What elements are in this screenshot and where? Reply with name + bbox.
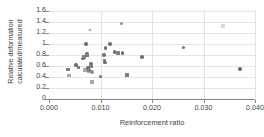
data-point xyxy=(121,51,125,55)
scatter-chart: Relative deformation calculated/measured… xyxy=(0,0,264,137)
data-point xyxy=(116,51,120,55)
y-axis-title-line-1: Relative deformation xyxy=(6,19,15,84)
x-axis-tick-label: 0.030 xyxy=(184,104,224,112)
y-axis-tick-label: 0.6 xyxy=(28,62,46,69)
x-axis-tick-mark xyxy=(152,100,153,103)
y-axis-title-line-2: calculated/measured xyxy=(15,19,24,84)
x-axis-tick-label: 0.000 xyxy=(29,104,69,112)
y-axis-tick-mark xyxy=(45,88,49,89)
data-point xyxy=(140,55,144,59)
data-point xyxy=(221,24,225,28)
data-point xyxy=(104,46,108,50)
y-axis-tick-mark xyxy=(45,22,49,23)
data-point xyxy=(86,54,90,58)
y-axis-tick-label: 1.6 xyxy=(28,7,46,14)
y-axis-tick-mark xyxy=(45,33,49,34)
data-point xyxy=(102,53,106,57)
x-axis-tick-mark xyxy=(255,100,256,103)
y-axis-tick-label: 0 xyxy=(28,95,46,102)
y-axis-tick-mark xyxy=(45,44,49,45)
data-point xyxy=(238,67,242,71)
data-point xyxy=(90,80,94,84)
data-point xyxy=(120,22,124,26)
x-axis-tick-label: 0.020 xyxy=(132,104,172,112)
vertical-gridline xyxy=(255,11,256,99)
data-point xyxy=(182,46,186,50)
vertical-gridline xyxy=(152,11,153,99)
x-axis-title: Reinforcement ratio xyxy=(49,118,255,127)
y-axis-tick-mark xyxy=(45,55,49,56)
x-axis-tick-mark xyxy=(49,100,50,103)
data-point xyxy=(88,28,92,31)
y-axis-tick-label: 0.8 xyxy=(28,51,46,58)
data-point xyxy=(77,66,81,70)
vertical-gridline xyxy=(204,11,205,99)
data-point xyxy=(90,70,94,74)
data-point xyxy=(84,42,88,46)
y-axis-tick-mark xyxy=(45,66,49,67)
y-axis-tick-labels: 00.20.40.60.811.21.41.6 xyxy=(28,11,46,99)
y-axis-tick-label: 0.2 xyxy=(28,84,46,91)
plot-area xyxy=(49,11,255,99)
x-axis-tick-labels: 0.0000.0100.0200.0300.040 xyxy=(0,104,264,114)
y-axis-tick-label: 1.4 xyxy=(28,18,46,25)
x-axis-tick-mark xyxy=(204,100,205,103)
y-axis-tick-mark xyxy=(45,77,49,78)
y-axis-tick-mark xyxy=(45,11,49,12)
x-axis-tick-label: 0.010 xyxy=(81,104,121,112)
data-point xyxy=(108,42,112,46)
data-point xyxy=(89,64,93,68)
y-axis-tick-label: 0.4 xyxy=(28,73,46,80)
data-point xyxy=(125,73,129,77)
y-axis-tick-label: 1 xyxy=(28,40,46,47)
y-axis-tick-label: 1.2 xyxy=(28,29,46,36)
y-axis-title: Relative deformation calculated/measured xyxy=(0,0,30,103)
data-point xyxy=(103,61,107,65)
x-axis-tick-label: 0.040 xyxy=(235,104,264,112)
x-axis-tick-mark xyxy=(101,100,102,103)
data-point xyxy=(67,74,71,78)
data-point xyxy=(66,68,70,72)
